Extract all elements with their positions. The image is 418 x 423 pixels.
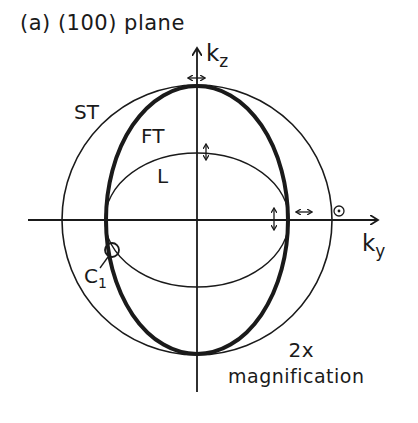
ky-label: ky xyxy=(362,230,385,261)
magnification-text: magnification xyxy=(228,363,365,389)
c1-c: C xyxy=(84,264,98,288)
c1-sub: 1 xyxy=(98,275,107,291)
l-label: L xyxy=(157,164,168,188)
out-of-plane-dot-icon xyxy=(334,206,344,216)
c1-label: C1 xyxy=(84,264,107,291)
kz-k: k xyxy=(206,40,219,66)
st-label: ST xyxy=(74,100,99,124)
ky-sub: y xyxy=(375,241,385,261)
kz-sub: z xyxy=(219,51,228,71)
kz-label: kz xyxy=(206,40,228,71)
magnification-note: 2x magnification xyxy=(228,337,365,389)
ky-k: k xyxy=(362,230,375,256)
magnification-factor: 2x xyxy=(228,337,365,363)
ft-label: FT xyxy=(141,124,164,148)
